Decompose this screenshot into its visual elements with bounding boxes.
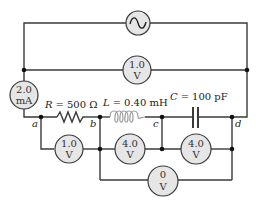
svg-text:0: 0 [160,169,166,180]
capacitor-symbol [193,107,198,128]
svg-text:4.0: 4.0 [122,138,138,149]
ammeter: 2.0 mA [10,81,38,109]
svg-text:1.0: 1.0 [61,138,77,149]
svg-text:4.0: 4.0 [188,138,204,149]
voltmeter-bc: 4.0 V [115,134,145,164]
capacitor-label: C=100 pF [170,91,228,102]
svg-text:1.0: 1.0 [129,59,145,70]
svg-text:R=500 Ω: R=500 Ω [44,99,97,110]
svg-text:V: V [64,149,73,160]
svg-text:2.0: 2.0 [16,84,32,95]
circuit-diagram: 1.0 V 2.0 mA 1.0 V 4.0 V 4.0 V 0 V [0,0,256,204]
ac-source [126,11,150,35]
svg-text:V: V [132,70,141,81]
resistor-label: R=500 Ω [44,99,97,110]
resistor-symbol [57,112,85,122]
voltmeter-ab: 1.0 V [55,135,83,163]
node-label-c: c [153,118,159,129]
svg-text:mA: mA [16,95,33,106]
inductor-symbol [110,111,145,122]
node-label-d: d [235,118,241,129]
inductor-label: L=0.40 mH [102,97,168,108]
svg-text:V: V [191,149,200,160]
voltmeter-bd: 0 V [148,166,178,196]
svg-text:C=100 pF: C=100 pF [170,91,228,102]
voltmeter-source: 1.0 V [123,56,151,84]
svg-text:V: V [125,149,134,160]
node-label-a: a [32,118,38,129]
svg-text:V: V [158,181,167,192]
node-label-b: b [90,118,96,129]
voltmeter-cd: 4.0 V [181,134,211,164]
svg-text:L=0.40 mH: L=0.40 mH [102,97,168,108]
